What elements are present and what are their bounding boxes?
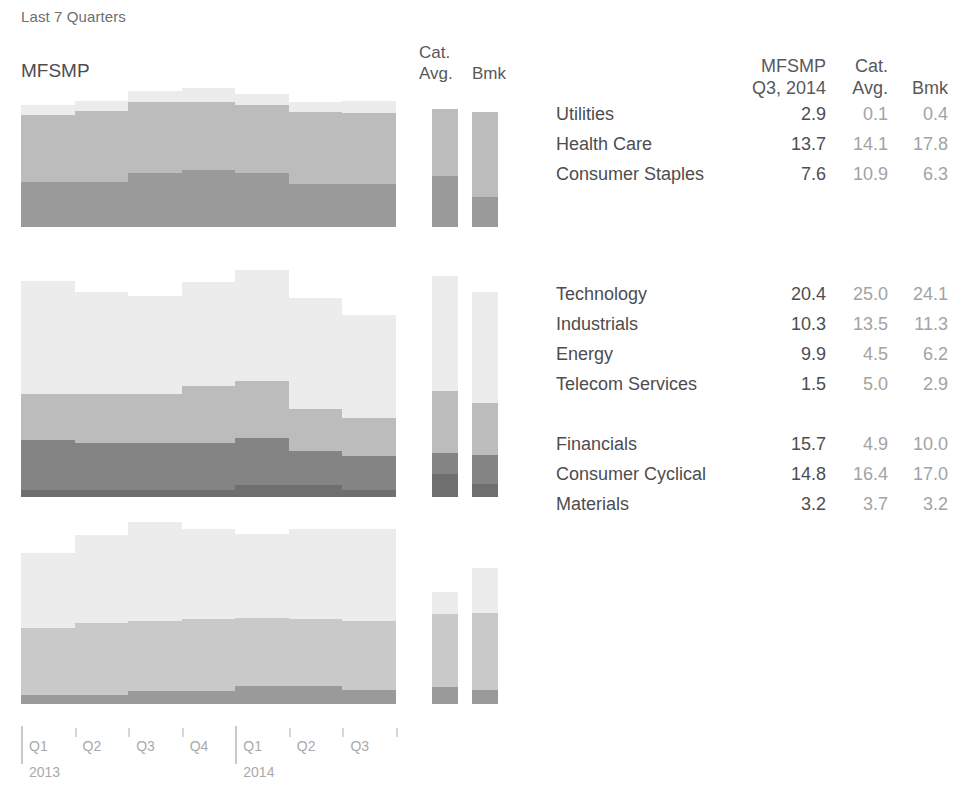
cat-avg-bar-cyclical: [432, 592, 458, 705]
header-cat-avg-line1: Cat.: [826, 55, 888, 77]
table-row: Utilities2.90.10.4: [556, 99, 948, 129]
header-cat-avg-line2: Avg.: [826, 77, 888, 99]
bar-segment-financials: [432, 592, 458, 614]
axis-tick-minor: [75, 728, 77, 737]
cell-bmk: 6.3: [888, 159, 948, 189]
cell-sector: Financials: [556, 429, 742, 459]
table-spacer-row: [556, 189, 948, 219]
table-header-row: MFSMP Q3, 2014 Cat. Avg. Bmk: [556, 55, 948, 99]
axis-quarter-label: Q1: [243, 738, 262, 754]
cell-cat-avg: 13.5: [826, 309, 888, 339]
bar-segment-telecom-services: [432, 474, 458, 497]
bar-segment-telecom-services: [472, 484, 498, 497]
table-row: Technology20.425.024.1: [556, 279, 948, 309]
sector-table: MFSMP Q3, 2014 Cat. Avg. Bmk Utilities2.…: [556, 55, 948, 519]
axis-quarter-label: Q2: [83, 738, 102, 754]
cell-sector: Health Care: [556, 129, 742, 159]
table-spacer-row: [556, 219, 948, 249]
cell-bmk: 6.2: [888, 339, 948, 369]
area-chart-panel-sensitive: [21, 244, 396, 497]
axis-tick-minor: [289, 728, 291, 737]
header-bmk-line2: Bmk: [888, 77, 948, 99]
cell-cat-avg: 16.4: [826, 459, 888, 489]
area-chart-panel-defensive: [21, 86, 396, 227]
bar-segment-industrials: [472, 403, 498, 455]
header-mfsmp-line1: MFSMP: [742, 55, 826, 77]
cell-bmk: 11.3: [888, 309, 948, 339]
axis-year-label: 2013: [29, 764, 60, 780]
axis-quarter-label: Q3: [136, 738, 155, 754]
header-bmk: Bmk: [888, 55, 948, 99]
bar-segment-industrials: [432, 391, 458, 453]
bmk-bar-sensitive: [472, 292, 498, 497]
bar-segment-consumer-cyclical: [472, 613, 498, 690]
bmk-bar-cyclical: [472, 568, 498, 704]
bar-segment-technology: [472, 292, 498, 403]
area-band-consumer-cyclical: [21, 618, 396, 695]
table-row: Industrials10.313.511.3: [556, 309, 948, 339]
table-row: Health Care13.714.117.8: [556, 129, 948, 159]
cat-avg-column-header: Cat. Avg.: [419, 42, 453, 84]
bar-segment-technology: [432, 276, 458, 391]
bar-segment-materials: [432, 687, 458, 704]
bar-segment-consumer-staples: [432, 176, 458, 227]
cell-bmk: 24.1: [888, 279, 948, 309]
bar-segment-energy: [472, 455, 498, 484]
spacer-cell: [556, 219, 948, 249]
header-mfsmp-line2: Q3, 2014: [742, 77, 826, 99]
cell-bmk: 0.4: [888, 99, 948, 129]
table-row: Consumer Staples7.610.96.3: [556, 159, 948, 189]
axis-tick-major: [21, 726, 23, 764]
bmk-bar-defensive: [472, 112, 498, 227]
cell-cat-avg: 4.5: [826, 339, 888, 369]
axis-quarter-label: Q3: [350, 738, 369, 754]
cell-mfsmp: 9.9: [742, 339, 826, 369]
cell-mfsmp: 7.6: [742, 159, 826, 189]
bar-segment-materials: [472, 690, 498, 704]
bmk-column-header: Bmk: [472, 63, 506, 84]
cat-avg-bar-defensive: [432, 109, 458, 227]
cell-bmk: 10.0: [888, 429, 948, 459]
header-mfsmp: MFSMP Q3, 2014: [742, 55, 826, 99]
cell-mfsmp: 13.7: [742, 129, 826, 159]
cell-cat-avg: 0.1: [826, 99, 888, 129]
cell-mfsmp: 10.3: [742, 309, 826, 339]
table-spacer-row: [556, 249, 948, 279]
axis-tick-minor: [128, 728, 130, 737]
cell-cat-avg: 5.0: [826, 369, 888, 399]
cell-cat-avg: 4.9: [826, 429, 888, 459]
table-row: Energy9.94.56.2: [556, 339, 948, 369]
spacer-cell: [556, 189, 948, 219]
cell-sector: Consumer Cyclical: [556, 459, 742, 489]
axis-tick-major: [235, 726, 237, 764]
bar-segment-financials: [472, 568, 498, 613]
bar-segment-health-care: [432, 109, 458, 175]
cell-bmk: 3.2: [888, 489, 948, 519]
cell-bmk: 17.0: [888, 459, 948, 489]
axis-quarter-label: Q4: [190, 738, 209, 754]
cell-sector: Consumer Staples: [556, 159, 742, 189]
cell-sector: Technology: [556, 279, 742, 309]
table-body: Utilities2.90.10.4Health Care13.714.117.…: [556, 99, 948, 519]
stacked-area-sensitive: [21, 244, 396, 497]
area-chart-panel-cyclical: [21, 515, 396, 704]
cell-bmk: 17.8: [888, 129, 948, 159]
stacked-area-defensive: [21, 86, 396, 227]
cell-mfsmp: 20.4: [742, 279, 826, 309]
cell-sector: Industrials: [556, 309, 742, 339]
cell-sector: Energy: [556, 339, 742, 369]
cat-avg-header-line1: Cat.: [419, 42, 453, 63]
cell-sector: Telecom Services: [556, 369, 742, 399]
cell-mfsmp: 2.9: [742, 99, 826, 129]
bar-segment-consumer-staples: [472, 197, 498, 227]
area-band-financials: [21, 522, 396, 628]
header-sector: [556, 55, 742, 99]
cat-avg-header-line2: Avg.: [419, 63, 453, 84]
cell-mfsmp: 3.2: [742, 489, 826, 519]
axis-year-label: 2014: [243, 764, 274, 780]
bar-segment-energy: [432, 453, 458, 474]
sector-exposure-table: MFSMP Q3, 2014 Cat. Avg. Bmk Utilities2.…: [556, 55, 948, 519]
axis-tick-minor: [342, 728, 344, 737]
table-row: Telecom Services1.55.02.9: [556, 369, 948, 399]
bar-segment-consumer-cyclical: [432, 614, 458, 688]
